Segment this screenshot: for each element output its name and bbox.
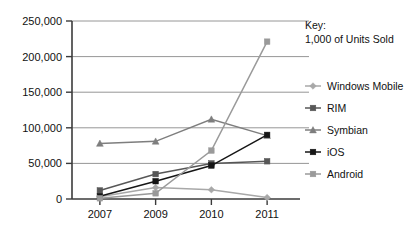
y-axis-ticks <box>66 21 72 199</box>
data-point <box>153 191 159 197</box>
data-series-group <box>96 39 270 201</box>
legend-label: Windows Mobile <box>327 80 404 92</box>
legend-item-symbian[interactable]: Symbian <box>305 124 368 136</box>
y-tick-label: 50,000 <box>28 157 62 169</box>
x-tick-label: 2011 <box>255 208 279 220</box>
y-tick-label: 250,000 <box>22 15 62 27</box>
series-symbian <box>96 116 270 146</box>
y-axis-tick-labels: 050,000100,000150,000200,000250,000 <box>22 15 62 205</box>
data-point <box>209 163 215 169</box>
legend-marker <box>310 171 316 177</box>
series-line <box>100 135 267 196</box>
data-point <box>208 116 215 122</box>
series-line <box>100 42 267 199</box>
data-point <box>209 148 215 154</box>
data-point <box>97 188 103 194</box>
y-tick-label: 0 <box>56 193 62 205</box>
series-line <box>100 119 267 143</box>
data-point <box>264 132 270 138</box>
x-tick-label: 2007 <box>88 208 112 220</box>
data-point <box>264 39 270 45</box>
x-tick-label: 2010 <box>199 208 223 220</box>
y-tick-label: 100,000 <box>22 122 62 134</box>
legend-label: RIM <box>327 102 346 114</box>
legend-label: Symbian <box>327 124 368 136</box>
legend-marker <box>310 149 316 155</box>
data-point <box>208 186 215 193</box>
data-point <box>97 195 103 201</box>
x-axis-tick-labels: 2007200920102011 <box>88 208 279 220</box>
data-point <box>264 158 270 164</box>
legend-item-windows-mobile[interactable]: Windows Mobile <box>305 80 404 92</box>
key-block: Key: 1,000 of Units Sold <box>305 19 394 45</box>
legend-label: iOS <box>327 146 345 158</box>
legend-label: Android <box>327 168 363 180</box>
series-android <box>97 39 270 201</box>
data-point <box>153 171 159 177</box>
legend-item-android[interactable]: Android <box>305 168 363 180</box>
legend-marker <box>310 83 317 90</box>
series-line <box>100 161 267 190</box>
data-point <box>153 178 159 184</box>
legend-item-rim[interactable]: RIM <box>305 102 346 114</box>
y-tick-label: 150,000 <box>22 86 62 98</box>
x-axis-ticks <box>100 199 267 205</box>
key-title: Key: <box>305 19 326 31</box>
legend: Windows MobileRIMSymbianiOSAndroid <box>305 80 404 180</box>
legend-marker <box>310 105 316 111</box>
key-units-label: 1,000 of Units Sold <box>305 33 394 45</box>
x-tick-label: 2009 <box>143 208 167 220</box>
gridlines <box>72 21 309 163</box>
y-tick-label: 200,000 <box>22 51 62 63</box>
legend-item-ios[interactable]: iOS <box>305 146 345 158</box>
chart-container: 050,000100,000150,000200,000250,000 2007… <box>0 0 412 241</box>
line-chart: 050,000100,000150,000200,000250,000 2007… <box>0 0 412 241</box>
data-point <box>264 194 271 201</box>
data-point <box>152 184 159 191</box>
